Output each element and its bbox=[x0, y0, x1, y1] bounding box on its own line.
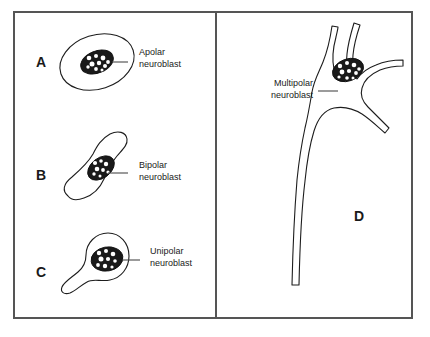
unipolar-label-line2: neuroblast bbox=[150, 258, 193, 268]
neuroblast-figure: A Apolar neuroblast B bbox=[0, 0, 430, 337]
panel-letter-c: C bbox=[36, 264, 46, 280]
panel-c-unipolar: C Unipolar neuroblast bbox=[36, 233, 193, 294]
apolar-label-line1: Apolar bbox=[139, 47, 165, 57]
bipolar-label-line2: neuroblast bbox=[139, 172, 182, 182]
multipolar-label-line1: Multipolar bbox=[274, 78, 313, 88]
apolar-label-line2: neuroblast bbox=[139, 59, 182, 69]
panel-d-multipolar: D Multipolar neuroblast bbox=[271, 23, 403, 285]
panel-letter-d: D bbox=[354, 208, 364, 224]
panel-a-apolar: A Apolar neuroblast bbox=[36, 25, 182, 100]
bipolar-label-line1: Bipolar bbox=[139, 160, 167, 170]
unipolar-label-line1: Unipolar bbox=[150, 246, 184, 256]
panel-letter-a: A bbox=[36, 54, 46, 70]
panel-letter-b: B bbox=[36, 167, 46, 183]
figure-canvas: A Apolar neuroblast B bbox=[0, 0, 430, 337]
multipolar-label-line2: neuroblast bbox=[271, 90, 314, 100]
panel-b-bipolar: B Bipolar neuroblast bbox=[36, 132, 182, 200]
